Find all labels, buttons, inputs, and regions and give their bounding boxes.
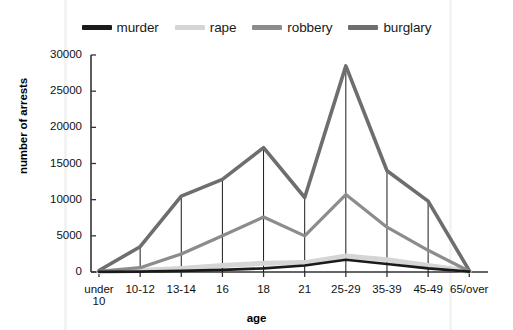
y-tick-label: 15000: [30, 157, 82, 169]
y-tick-label: 25000: [30, 84, 82, 96]
y-tick-label: 0: [30, 265, 82, 277]
y-tick-label: 20000: [30, 120, 82, 132]
arrests-by-age-chart: murderraperobberyburglary number of arre…: [0, 0, 513, 330]
y-tick-label: 10000: [30, 193, 82, 205]
x-axis-title: age: [0, 312, 513, 324]
series-line-robbery: [99, 195, 469, 272]
y-axis-title: number of arrests: [17, 66, 29, 186]
category-stems: [140, 66, 469, 272]
y-tick-label: 5000: [30, 229, 82, 241]
y-tick-label: 30000: [30, 48, 82, 60]
x-tick-label: 65/over: [441, 283, 497, 295]
series-line-burglary: [99, 66, 469, 271]
